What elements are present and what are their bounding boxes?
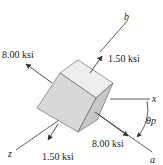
axis-label-b: b [124, 11, 129, 22]
stress-arrow-upper-left [26, 64, 52, 83]
axis-label-z: z [7, 148, 12, 159]
stress-label-lower-left: 1.50 ksi [42, 151, 74, 162]
stress-label-lower-right: 8.00 ksi [92, 138, 124, 149]
b-axis-line [100, 20, 128, 52]
stress-label-upper-right: 1.50 ksi [108, 53, 140, 64]
stress-element-diagram: 8.00 ksi 1.50 ksi 8.00 ksi 1.50 ksi b x … [0, 0, 163, 165]
stress-arrow-lower-right [95, 112, 128, 136]
angle-label-theta-p: θp [146, 115, 156, 126]
stress-label-upper-left: 8.00 ksi [2, 49, 34, 60]
stress-cube [37, 60, 113, 132]
axis-label-x: x [151, 93, 157, 104]
z-axis-line [16, 118, 62, 150]
axis-label-a: a [150, 154, 155, 165]
stress-arrow-upper-right [90, 56, 102, 73]
